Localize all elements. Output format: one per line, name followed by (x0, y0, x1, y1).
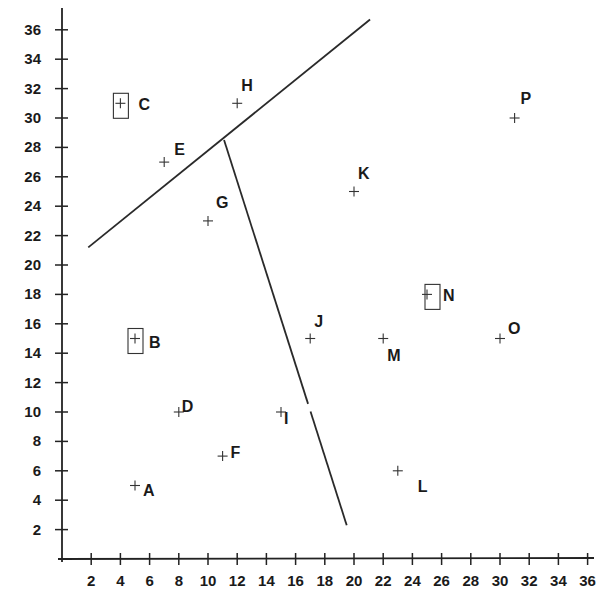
data-point-b: B (128, 329, 161, 354)
point-label: H (241, 77, 253, 94)
point-label: M (387, 347, 400, 364)
point-label: O (508, 320, 520, 337)
y-tick-label: 30 (24, 109, 41, 126)
point-label: B (149, 334, 161, 351)
data-point-p: P (510, 90, 532, 123)
x-tick-label: 12 (229, 572, 246, 589)
x-tick-label: 2 (87, 572, 95, 589)
data-point-g: G (203, 194, 228, 226)
y-tick-label: 4 (33, 491, 42, 508)
point-label: K (358, 165, 370, 182)
lower-boundary-line (224, 140, 308, 404)
data-point-m: M (378, 334, 400, 364)
y-tick-label: 12 (24, 374, 41, 391)
data-point-e: E (159, 141, 185, 167)
x-tick-label: 36 (579, 572, 596, 589)
y-tick-label: 26 (24, 168, 41, 185)
point-label: J (314, 313, 323, 330)
y-tick-label: 14 (24, 344, 41, 361)
upper-boundary-line (88, 20, 370, 248)
x-tick-label: 22 (375, 572, 392, 589)
data-point-j: J (305, 313, 323, 344)
x-tick-label: 4 (116, 572, 125, 589)
x-tick-label: 24 (404, 572, 421, 589)
point-label: N (443, 287, 455, 304)
data-point-d: D (174, 398, 194, 417)
data-point-o: O (495, 320, 520, 344)
y-tick-label: 6 (33, 462, 41, 479)
point-label: F (231, 444, 241, 461)
y-tick-label: 36 (24, 21, 41, 38)
x-tick-label: 30 (492, 572, 509, 589)
data-point-c: C (113, 93, 150, 118)
x-tick-label: 34 (550, 572, 567, 589)
data-point-l: L (393, 466, 428, 495)
y-tick-label: 24 (24, 197, 41, 214)
x-tick-label: 26 (433, 572, 450, 589)
x-tick-label: 10 (200, 572, 217, 589)
point-label: L (418, 478, 428, 495)
y-tick-label: 28 (24, 138, 41, 155)
y-tick-label: 16 (24, 315, 41, 332)
x-tick-label: 16 (287, 572, 304, 589)
y-tick-label: 20 (24, 256, 41, 273)
data-point-a: A (130, 481, 155, 499)
y-tick-label: 10 (24, 403, 41, 420)
y-tick-label: 34 (24, 50, 41, 67)
x-tick-label: 18 (316, 572, 333, 589)
point-label: D (182, 398, 194, 415)
y-tick-label: 2 (33, 521, 41, 538)
data-points: ABCDEFGHIJKLMNOP (113, 77, 531, 498)
data-point-h: H (232, 77, 253, 108)
lower-boundary-line (311, 412, 347, 526)
point-label: P (521, 90, 532, 107)
data-point-n: N (422, 284, 455, 309)
x-tick-label: 20 (346, 572, 363, 589)
x-tick-label: 14 (258, 572, 275, 589)
y-tick-label: 18 (24, 285, 41, 302)
boundary-lines (88, 20, 370, 526)
y-tick-label: 8 (33, 432, 41, 449)
point-label: G (216, 194, 228, 211)
data-point-i: I (276, 407, 288, 427)
point-label: E (174, 141, 185, 158)
x-tick-label: 8 (175, 572, 183, 589)
data-point-k: K (349, 165, 370, 197)
y-axis: 24681012141618202224262830323436 (24, 8, 68, 562)
data-point-f: F (218, 444, 241, 461)
point-label: I (284, 410, 288, 427)
scatter-chart: 24681012141618202224262830323436 2468101… (0, 0, 613, 604)
y-tick-label: 22 (24, 227, 41, 244)
y-tick-label: 32 (24, 80, 41, 97)
point-label: C (138, 96, 150, 113)
x-tick-label: 28 (462, 572, 479, 589)
x-axis: 24681012141618202224262830323436 (58, 553, 596, 589)
x-tick-label: 6 (145, 572, 153, 589)
x-tick-label: 32 (521, 572, 538, 589)
point-label: A (143, 482, 155, 499)
